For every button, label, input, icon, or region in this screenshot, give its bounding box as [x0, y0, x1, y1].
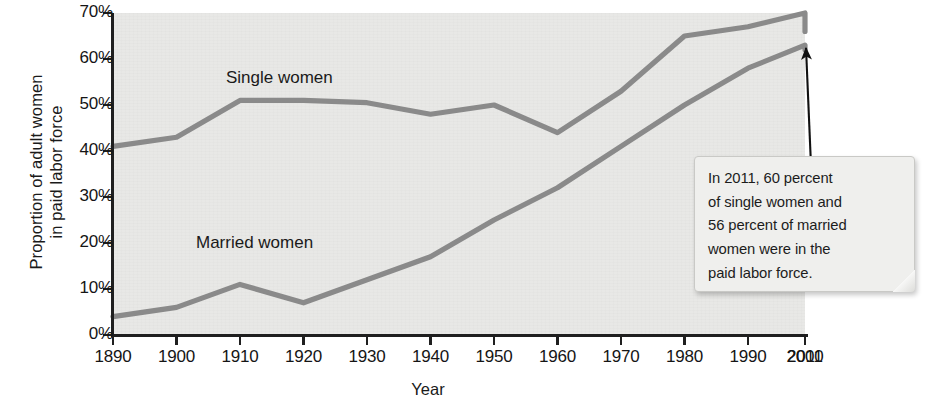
x-tick-label: 1890: [83, 347, 143, 367]
x-tick-mark: [175, 336, 177, 345]
x-tick-label: 1960: [528, 347, 588, 367]
x-tick-label: 1990: [718, 347, 778, 367]
x-tick-mark: [112, 336, 114, 345]
chart-figure: Proportion of adult women in paid labor …: [0, 0, 940, 414]
callout-line-5: paid labor force.: [708, 262, 902, 286]
callout-line-3: 56 percent of married: [708, 214, 902, 238]
x-tick-label: 1940: [401, 347, 461, 367]
x-tick-label: 1970: [591, 347, 651, 367]
x-tick-label: 2011: [775, 347, 835, 367]
callout-line-2: of single women and: [708, 191, 902, 215]
callout-line-1: In 2011, 60 percent: [708, 167, 902, 191]
x-tick-label: 1980: [655, 347, 715, 367]
x-tick-mark: [366, 336, 368, 345]
x-tick-label: 1920: [274, 347, 334, 367]
x-tick-mark: [620, 336, 622, 345]
x-tick-mark: [429, 336, 431, 345]
x-axis-title: Year: [368, 380, 488, 399]
x-tick-mark: [302, 336, 304, 345]
x-tick-label: 1930: [337, 347, 397, 367]
x-tick-label: 1900: [147, 347, 207, 367]
series-label-married-women: Married women: [196, 233, 313, 253]
x-tick-mark: [493, 336, 495, 345]
x-tick-label: 1950: [464, 347, 524, 367]
callout-box: In 2011, 60 percent of single women and …: [694, 156, 915, 292]
x-tick-mark: [747, 336, 749, 345]
x-tick-mark: [683, 336, 685, 345]
x-tick-mark: [556, 336, 558, 345]
x-tick-mark: [239, 336, 241, 345]
x-tick-label: 1910: [210, 347, 270, 367]
series-label-single-women: Single women: [226, 68, 333, 88]
callout-text: In 2011, 60 percent of single women and …: [708, 167, 902, 285]
x-tick-mark: [804, 336, 806, 345]
callout-line-4: women were in the: [708, 238, 902, 262]
